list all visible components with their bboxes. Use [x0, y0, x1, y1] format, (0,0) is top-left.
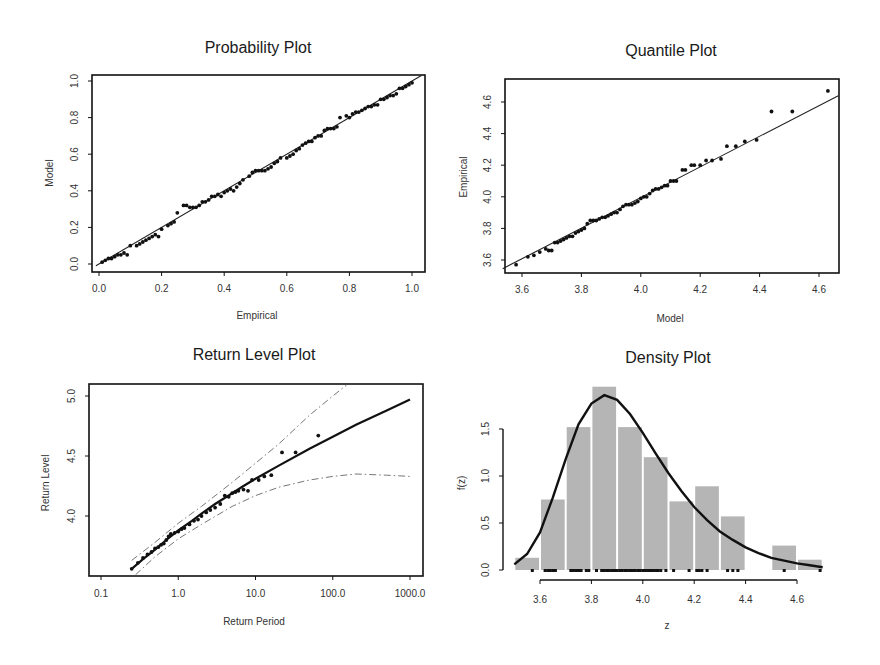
- rug-mark: [639, 569, 642, 572]
- density-plot-area: 0.00.51.01.53.63.84.04.24.44.6: [480, 387, 823, 605]
- quantile-plot-xlabel: Model: [656, 313, 683, 324]
- data-point: [225, 189, 229, 193]
- data-point: [316, 434, 320, 438]
- rug-mark: [654, 569, 657, 572]
- data-point: [197, 204, 201, 208]
- rug-mark: [613, 569, 616, 572]
- data-point: [410, 81, 414, 85]
- probability-plot-panel: Probability Plot 0.00.20.40.60.81.00.00.…: [44, 39, 425, 321]
- rug-mark: [688, 569, 691, 572]
- rug-mark: [608, 569, 611, 572]
- x-tick-label: 0.1: [94, 588, 108, 599]
- data-point: [130, 567, 134, 571]
- return-level-plot-panel: Return Level Plot 0.11.010.0100.01000.04…: [40, 346, 426, 627]
- data-point: [725, 144, 729, 148]
- data-point: [698, 163, 702, 167]
- histogram-bar: [644, 457, 668, 570]
- x-tick-label: 1.0: [171, 588, 185, 599]
- rug-mark: [819, 569, 822, 572]
- x-tick-label: 0.0: [92, 283, 106, 294]
- rug-mark: [634, 569, 637, 572]
- y-tick-label: 4.0: [482, 189, 493, 203]
- data-point: [710, 159, 714, 163]
- rug-mark: [736, 569, 739, 572]
- data-point: [257, 478, 261, 482]
- data-point: [238, 182, 242, 186]
- density-plot-xlabel: z: [665, 620, 670, 631]
- data-point: [188, 523, 192, 527]
- rug-mark: [577, 569, 580, 572]
- data-point: [376, 103, 380, 107]
- return-level-plot-xlabel: Return Period: [223, 616, 285, 627]
- x-tick-label: 0.2: [155, 283, 169, 294]
- rug-mark: [731, 569, 734, 572]
- rug-mark: [664, 569, 667, 572]
- rug-mark: [623, 569, 626, 572]
- data-point: [615, 211, 619, 215]
- rug-mark: [531, 569, 534, 572]
- rug-mark: [572, 569, 575, 572]
- probability-plot-xlabel: Empirical: [236, 310, 277, 321]
- data-point: [172, 220, 176, 224]
- x-tick-label: 4.0: [636, 594, 650, 605]
- data-point: [394, 92, 398, 96]
- y-tick-label: 1.5: [480, 422, 491, 436]
- data-point: [538, 250, 542, 254]
- x-tick-label: 4.6: [790, 594, 804, 605]
- confidence-band-line: [132, 385, 347, 560]
- data-point: [692, 163, 696, 167]
- data-point: [162, 542, 166, 546]
- data-point: [223, 494, 227, 498]
- rug-mark: [554, 569, 557, 572]
- x-tick-label: 4.2: [693, 284, 707, 295]
- rug-mark: [641, 569, 644, 572]
- histogram-bar: [721, 516, 745, 570]
- data-point: [141, 556, 145, 560]
- data-point: [250, 478, 254, 482]
- x-tick-label: 3.6: [515, 284, 529, 295]
- data-point: [618, 208, 622, 212]
- rug-mark: [544, 569, 547, 572]
- rug-mark: [726, 569, 729, 572]
- y-tick-label: 0.0: [480, 563, 491, 577]
- data-point: [196, 518, 200, 522]
- rug-mark: [546, 569, 549, 572]
- data-point: [280, 451, 284, 455]
- rug-mark: [631, 569, 634, 572]
- x-tick-label: 10.0: [246, 588, 266, 599]
- y-tick-label: 4.0: [66, 509, 77, 523]
- return-level-line: [132, 400, 410, 569]
- x-tick-label: 1000.0: [395, 588, 426, 599]
- histogram-bar: [618, 427, 642, 570]
- data-point: [532, 253, 536, 257]
- data-point: [150, 550, 154, 554]
- data-point: [176, 530, 180, 534]
- data-point: [185, 204, 189, 208]
- y-tick-label: 0.8: [69, 110, 80, 124]
- data-point: [571, 234, 575, 238]
- y-tick-label: 4.6: [482, 95, 493, 109]
- data-point: [404, 85, 408, 89]
- x-tick-label: 0.4: [217, 283, 231, 294]
- y-tick-label: 0.6: [69, 147, 80, 161]
- data-point: [247, 174, 251, 178]
- probability-plot-ylabel: Model: [44, 159, 55, 186]
- data-point: [826, 89, 830, 93]
- y-tick-label: 5.0: [66, 389, 77, 403]
- data-point: [227, 495, 231, 499]
- rug-mark: [605, 569, 608, 572]
- y-tick-label: 4.5: [66, 449, 77, 463]
- return-level-plot-ylabel: Return Level: [40, 455, 51, 512]
- data-point: [235, 185, 239, 189]
- data-point: [526, 255, 530, 259]
- y-tick-label: 3.6: [482, 253, 493, 267]
- data-point: [216, 193, 220, 197]
- data-point: [207, 198, 211, 202]
- data-point: [218, 502, 222, 506]
- data-point: [204, 200, 208, 204]
- x-tick-label: 3.8: [574, 284, 588, 295]
- data-point: [160, 227, 164, 231]
- x-tick-label: 4.4: [739, 594, 753, 605]
- data-point: [153, 233, 157, 237]
- data-point: [144, 238, 148, 242]
